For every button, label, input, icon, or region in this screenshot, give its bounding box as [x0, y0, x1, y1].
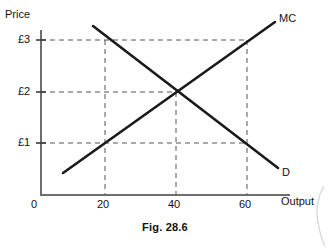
axes	[41, 30, 290, 196]
x-axis-title: Output	[281, 196, 314, 207]
x-tick-label-60: 60	[239, 199, 251, 210]
x-tick-label-0: 0	[31, 199, 37, 210]
curve-d	[93, 26, 278, 168]
y-tick-label-2: £2	[18, 86, 30, 97]
curve-label-d: D	[282, 167, 290, 178]
x-tick-label-40: 40	[168, 199, 180, 210]
y-axis-title: Price	[5, 9, 30, 20]
curve-mc	[63, 22, 275, 173]
scan-artifact	[317, 186, 325, 246]
figure-container: Price Output MC D £3 £2 £1 0 20 40 60 Fi…	[0, 0, 330, 250]
curve-label-mc: MC	[279, 13, 296, 24]
x-tick-label-20: 20	[97, 199, 109, 210]
chart-plot-area	[0, 0, 330, 250]
figure-caption: Fig. 28.6	[0, 221, 330, 233]
y-tick-label-3: £3	[18, 34, 30, 45]
y-tick-label-1: £1	[18, 137, 30, 148]
